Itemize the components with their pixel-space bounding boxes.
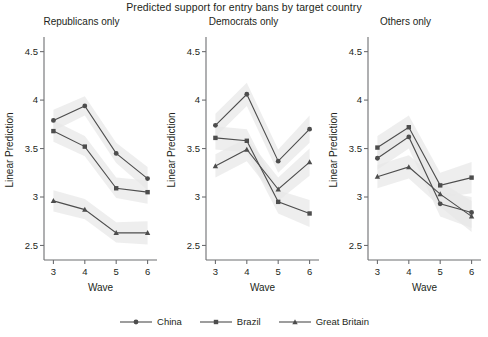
- panel-title: Others only: [324, 16, 487, 27]
- data-point-circle-icon: [276, 159, 281, 164]
- y-tick-label: 3: [195, 191, 200, 202]
- legend-item-great-britain[interactable]: Great Britain: [278, 316, 369, 328]
- y-tick-label: 3.5: [349, 143, 362, 154]
- legend-circle-icon: [134, 319, 139, 324]
- y-tick-label: 4.5: [187, 46, 200, 57]
- panel-container: Republicans only2.533.544.53456WaveLinea…: [0, 16, 488, 306]
- x-axis-title: Wave: [412, 282, 438, 293]
- y-axis-title: Linear Prediction: [328, 112, 339, 187]
- y-axis-title: Linear Prediction: [166, 112, 177, 187]
- y-tick-label: 4: [357, 94, 362, 105]
- x-axis-title: Wave: [250, 282, 276, 293]
- legend-item-china[interactable]: China: [119, 316, 182, 328]
- panel-democrats-only: Democrats only2.533.544.53456WaveLinear …: [162, 16, 325, 306]
- data-point-circle-icon: [438, 201, 443, 206]
- data-point-square-icon: [145, 190, 149, 194]
- data-point-circle-icon: [51, 118, 56, 123]
- legend-label: Great Britain: [316, 316, 369, 327]
- y-tick-label: 4: [33, 94, 38, 105]
- panel-title: Democrats only: [162, 16, 325, 27]
- data-point-circle-icon: [375, 156, 380, 161]
- figure-root: Predicted support for entry bans by targ…: [0, 0, 488, 337]
- data-point-square-icon: [438, 183, 442, 187]
- data-point-square-icon: [51, 129, 55, 133]
- panel-others-only: Others only2.533.544.53456WaveLinear Pre…: [324, 16, 487, 306]
- panel-plot: 2.533.544.53456WaveLinear Prediction: [324, 30, 487, 306]
- x-tick-label: 3: [213, 266, 218, 277]
- data-point-square-icon: [245, 139, 249, 143]
- panel-plot: 2.533.544.53456WaveLinear Prediction: [162, 30, 325, 306]
- x-tick-label: 3: [51, 266, 56, 277]
- y-tick-label: 3: [33, 191, 38, 202]
- data-point-circle-icon: [82, 104, 87, 109]
- legend-swatch: [119, 316, 153, 328]
- x-tick-label: 3: [375, 266, 380, 277]
- data-point-square-icon: [375, 145, 379, 149]
- y-tick-label: 4.5: [25, 46, 38, 57]
- y-tick-label: 3.5: [187, 143, 200, 154]
- x-axis-title: Wave: [88, 282, 114, 293]
- data-point-square-icon: [114, 186, 118, 190]
- data-point-square-icon: [276, 200, 280, 204]
- legend-swatch: [199, 316, 233, 328]
- legend-item-brazil[interactable]: Brazil: [199, 316, 261, 328]
- x-tick-label: 4: [406, 266, 411, 277]
- panel-republicans-only: Republicans only2.533.544.53456WaveLinea…: [0, 16, 163, 306]
- y-tick-label: 3: [357, 191, 362, 202]
- data-point-circle-icon: [244, 92, 249, 97]
- x-tick-label: 6: [145, 266, 150, 277]
- y-tick-label: 4: [195, 94, 200, 105]
- data-point-circle-icon: [213, 123, 218, 128]
- x-tick-label: 5: [438, 266, 443, 277]
- y-tick-label: 2.5: [187, 240, 200, 251]
- legend-label: China: [157, 316, 182, 327]
- data-point-square-icon: [213, 136, 217, 140]
- data-point-square-icon: [83, 144, 87, 148]
- data-point-circle-icon: [114, 151, 119, 156]
- x-tick-label: 4: [82, 266, 87, 277]
- chart-legend: ChinaBrazilGreat Britain: [0, 306, 488, 337]
- data-point-square-icon: [407, 125, 411, 129]
- data-point-circle-icon: [406, 135, 411, 140]
- x-tick-label: 5: [276, 266, 281, 277]
- y-axis-title: Linear Prediction: [4, 112, 15, 187]
- y-tick-label: 4.5: [349, 46, 362, 57]
- data-point-square-icon: [469, 175, 473, 179]
- y-tick-label: 2.5: [349, 240, 362, 251]
- legend-label: Brazil: [237, 316, 261, 327]
- data-point-circle-icon: [145, 176, 150, 181]
- y-tick-label: 2.5: [25, 240, 38, 251]
- x-tick-label: 6: [469, 266, 474, 277]
- data-point-circle-icon: [307, 127, 312, 132]
- y-tick-label: 3.5: [25, 143, 38, 154]
- legend-swatch: [278, 316, 312, 328]
- panel-title: Republicans only: [0, 16, 163, 27]
- x-tick-label: 5: [114, 266, 119, 277]
- legend-square-icon: [214, 319, 218, 323]
- panel-plot: 2.533.544.53456WaveLinear Prediction: [0, 30, 163, 306]
- figure-title: Predicted support for entry bans by targ…: [0, 1, 488, 13]
- data-point-square-icon: [307, 211, 311, 215]
- x-tick-label: 4: [244, 266, 249, 277]
- x-tick-label: 6: [307, 266, 312, 277]
